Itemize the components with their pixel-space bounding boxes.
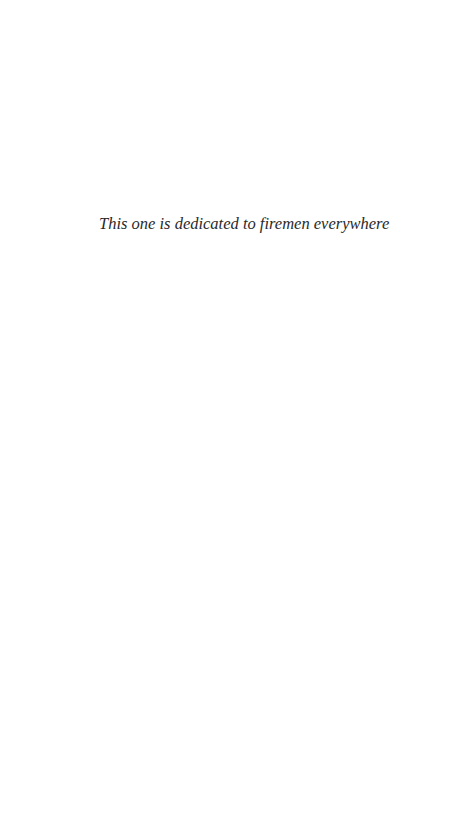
dedication-text: This one is dedicated to firemen everywh…: [99, 213, 389, 235]
book-page: This one is dedicated to firemen everywh…: [0, 0, 464, 816]
